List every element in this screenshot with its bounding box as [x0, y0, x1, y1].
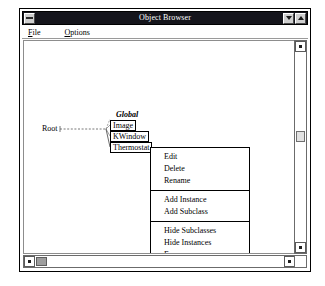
context-menu-item-add-subclass[interactable]: Add Subclass: [151, 206, 249, 218]
context-menu-item-hide-subclasses[interactable]: Hide Subclasses: [151, 225, 249, 237]
class-node-kwindow[interactable]: KWindow: [110, 131, 149, 142]
class-node-thermostat[interactable]: Thermostat: [110, 142, 152, 153]
arrow-glyph: [28, 260, 31, 263]
menu-item-file[interactable]: File: [25, 27, 43, 38]
context-menu-item-rename[interactable]: Rename: [151, 175, 249, 187]
object-browser-window: Object Browser File Options: [19, 8, 311, 272]
vertical-scrollbar-thumb[interactable]: [296, 131, 305, 142]
arrow-glyph: [299, 246, 302, 249]
root-node-label: Root: [42, 124, 58, 133]
window-system-menu-button[interactable]: [24, 13, 35, 24]
horizontal-scrollbar[interactable]: [23, 255, 296, 268]
scroll-down-icon[interactable]: [295, 242, 306, 253]
window-control-buttons: [283, 12, 306, 24]
context-menu-item-add-instance[interactable]: Add Instance: [151, 194, 249, 206]
context-menu-item-edit[interactable]: Edit: [151, 151, 249, 163]
triangle-down-icon: [286, 16, 292, 20]
context-menu-group-add: Add Instance Add Subclass: [151, 191, 249, 222]
browser-canvas[interactable]: Root Global Image KWindow Thermostat Edi…: [23, 40, 296, 254]
arrow-glyph: [299, 45, 302, 48]
window-minimize-button[interactable]: [283, 13, 294, 24]
vertical-scrollbar[interactable]: [294, 40, 307, 254]
title-bar: Object Browser: [22, 11, 308, 25]
menu-file-rest: ile: [32, 28, 40, 37]
menu-item-options[interactable]: Options: [61, 27, 92, 38]
triangle-up-icon: [298, 16, 304, 20]
scroll-up-icon[interactable]: [295, 41, 306, 52]
scrollbar-corner: [294, 255, 307, 268]
context-menu-item-delete[interactable]: Delete: [151, 163, 249, 175]
context-menu[interactable]: Edit Delete Rename Add Instance Add Subc…: [150, 147, 250, 254]
context-menu-group-view: Hide Subclasses Hide Instances Focus: [151, 222, 249, 254]
context-menu-item-hide-instances[interactable]: Hide Instances: [151, 237, 249, 249]
class-node-image[interactable]: Image: [110, 120, 136, 131]
context-menu-group-edit: Edit Delete Rename: [151, 148, 249, 191]
global-group-label: Global: [116, 110, 138, 119]
window-title: Object Browser: [23, 12, 307, 24]
minimize-bar-icon: [26, 17, 33, 19]
window-maximize-button[interactable]: [295, 13, 306, 24]
scroll-left-icon[interactable]: [24, 256, 35, 267]
horizontal-scrollbar-thumb[interactable]: [36, 257, 47, 266]
menu-options-rest: ptions: [70, 28, 90, 37]
context-menu-item-focus[interactable]: Focus: [151, 249, 249, 254]
menu-bar: File Options: [22, 26, 308, 39]
arrow-glyph: [288, 260, 291, 263]
